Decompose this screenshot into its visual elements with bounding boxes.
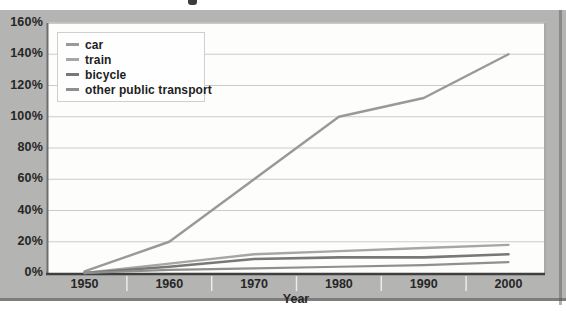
y-tick-label: 20%	[0, 234, 43, 248]
x-tick-label: 1980	[309, 277, 369, 291]
x-tick-label: 2000	[479, 277, 539, 291]
y-tick-label: 0%	[0, 265, 43, 279]
y-tick-label: 60%	[0, 171, 43, 185]
legend-item-train: train	[66, 52, 198, 67]
scan-edge-artifact	[559, 10, 562, 305]
legend-item-bicycle: bicycle	[66, 67, 198, 82]
legend-label-other-public-transport: other public transport	[85, 83, 212, 97]
legend-swatch-bicycle	[66, 73, 79, 76]
y-tick-label: 160%	[0, 15, 43, 29]
legend-swatch-other-public-transport	[66, 88, 79, 91]
x-tick-label: 1970	[224, 277, 284, 291]
legend-label-train: train	[85, 53, 112, 67]
y-tick-label: 120%	[0, 78, 43, 92]
x-tick-label: 1950	[55, 277, 115, 291]
x-tick-label: 1990	[394, 277, 454, 291]
y-tick-label: 140%	[0, 46, 43, 60]
x-tick-label: 1960	[139, 277, 199, 291]
x-axis-title: Year	[266, 292, 326, 306]
chart-legend: car train bicycle other public transport	[57, 32, 205, 102]
legend-swatch-train	[66, 58, 79, 61]
legend-item-other-public-transport: other public transport	[66, 82, 198, 97]
legend-swatch-car	[66, 43, 79, 46]
y-tick-label: 100%	[0, 109, 43, 123]
y-tick-label: 80%	[0, 140, 43, 154]
legend-label-car: car	[85, 38, 103, 52]
legend-label-bicycle: bicycle	[85, 68, 126, 82]
legend-item-car: car	[66, 37, 198, 52]
y-tick-label: 40%	[0, 203, 43, 217]
